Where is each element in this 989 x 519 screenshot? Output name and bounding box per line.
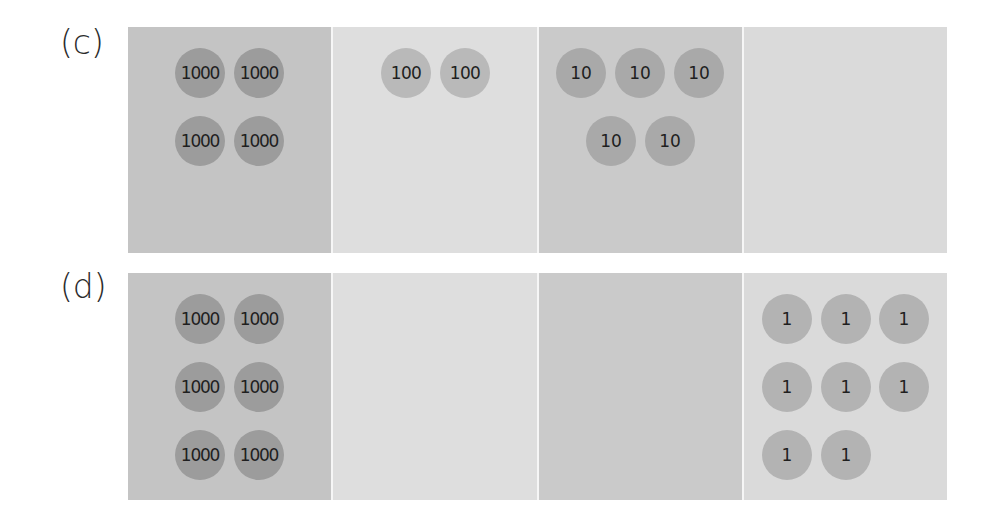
- panel-label-d: (d): [60, 270, 107, 303]
- chip-1: 1: [879, 362, 929, 412]
- chip-1000: 1000: [234, 362, 284, 412]
- chip-10: 10: [674, 48, 724, 98]
- chip-1000: 1000: [175, 294, 225, 344]
- chip-10: 10: [556, 48, 606, 98]
- chip-1000: 1000: [175, 430, 225, 480]
- chip-10: 10: [586, 116, 636, 166]
- chip-100: 100: [440, 48, 490, 98]
- chip-1: 1: [821, 362, 871, 412]
- chip-1000: 1000: [234, 48, 284, 98]
- chip-1: 1: [879, 294, 929, 344]
- chip-1: 1: [821, 430, 871, 480]
- tens-column: [539, 273, 744, 500]
- chip-1000: 1000: [234, 294, 284, 344]
- chip-1000: 1000: [234, 116, 284, 166]
- chip-1000: 1000: [175, 48, 225, 98]
- place-value-panel-d: 1000 1000 1000 1000 1000 1000 1 1 1 1 1 …: [128, 273, 947, 500]
- chip-100: 100: [381, 48, 431, 98]
- ones-column: [744, 27, 947, 253]
- chip-1: 1: [762, 294, 812, 344]
- thousands-column: 1000 1000 1000 1000 1000 1000: [128, 273, 333, 500]
- chip-1: 1: [762, 430, 812, 480]
- chip-10: 10: [615, 48, 665, 98]
- chip-1: 1: [821, 294, 871, 344]
- hundreds-column: 100 100: [333, 27, 539, 253]
- thousands-column: 1000 1000 1000 1000: [128, 27, 333, 253]
- chip-1000: 1000: [234, 430, 284, 480]
- chip-10: 10: [645, 116, 695, 166]
- tens-column: 10 10 10 10 10: [539, 27, 744, 253]
- place-value-panel-c: 1000 1000 1000 1000 100 100 10 10 10 10 …: [128, 27, 947, 253]
- panel-label-c: (c): [60, 26, 104, 59]
- ones-column: 1 1 1 1 1 1 1 1: [744, 273, 947, 500]
- chip-1000: 1000: [175, 116, 225, 166]
- chip-1000: 1000: [175, 362, 225, 412]
- chip-1: 1: [762, 362, 812, 412]
- hundreds-column: [333, 273, 539, 500]
